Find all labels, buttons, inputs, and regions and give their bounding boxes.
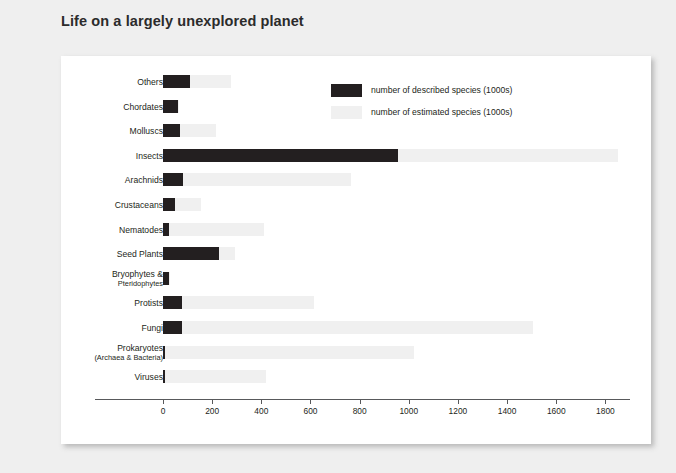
category-label: Viruses [23, 372, 163, 382]
chart-row: Bryophytes &Pteridophytes [61, 267, 651, 291]
bar-described [163, 75, 190, 88]
x-axis-tick [409, 399, 410, 404]
bar-described [163, 370, 165, 383]
x-axis-tick-label: 1000 [399, 406, 418, 416]
bar-estimated [163, 370, 266, 383]
chart-row: Prokaryotes(Archaea & Bacteria) [61, 341, 651, 365]
x-axis-tick-label: 200 [205, 406, 219, 416]
x-axis-tick-label: 1400 [498, 406, 517, 416]
bar-group [163, 291, 651, 315]
bar-estimated [163, 173, 351, 186]
x-axis-line [95, 399, 630, 400]
chart-row: Arachnids [61, 168, 651, 192]
x-axis-tick-label: 800 [353, 406, 367, 416]
x-axis-tick [507, 399, 508, 404]
category-label: Chordates [23, 102, 163, 112]
bar-estimated [163, 321, 533, 334]
category-label: Fungi [23, 323, 163, 333]
chart-row: Fungi [61, 316, 651, 340]
category-label: Crustaceans [23, 200, 163, 210]
legend-swatch-described [331, 84, 362, 97]
bar-described [163, 198, 175, 211]
x-axis-tick-label: 1200 [449, 406, 468, 416]
x-axis-tick [212, 399, 213, 404]
bar-described [163, 149, 398, 162]
chart-page: Life on a largely unexplored planet Othe… [0, 0, 676, 473]
x-axis-tick-label: 0 [161, 406, 166, 416]
bar-described [163, 124, 180, 137]
bar-described [163, 272, 169, 285]
chart-row: Crustaceans [61, 193, 651, 217]
chart-row: Protists [61, 291, 651, 315]
x-axis-tick-label: 400 [254, 406, 268, 416]
bar-group [163, 341, 651, 365]
x-axis-tick [458, 399, 459, 404]
x-axis-tick [310, 399, 311, 404]
bar-described [163, 346, 165, 359]
category-label: Bryophytes &Pteridophytes [23, 269, 163, 289]
category-label: Insects [23, 151, 163, 161]
category-label: Others [23, 77, 163, 87]
bar-described [163, 100, 178, 113]
bar-group [163, 316, 651, 340]
chart-row: Viruses [61, 365, 651, 389]
bar-group [163, 218, 651, 242]
category-label-sub: (Archaea & Bacteria) [23, 353, 163, 363]
x-axis-tick [163, 399, 164, 404]
chart-card: OthersChordatesMolluscsInsectsArachnidsC… [61, 56, 651, 444]
category-label: Seed Plants [23, 249, 163, 259]
category-label: Prokaryotes(Archaea & Bacteria) [23, 343, 163, 363]
bar-group [163, 193, 651, 217]
bar-group [163, 365, 651, 389]
bar-group [163, 267, 651, 291]
category-label: Nematodes [23, 225, 163, 235]
x-axis-tick-label: 600 [303, 406, 317, 416]
category-label: Arachnids [23, 175, 163, 185]
page-title: Life on a largely unexplored planet [61, 13, 304, 29]
legend-swatch-estimated [331, 106, 362, 119]
x-axis-tick [360, 399, 361, 404]
bar-described [163, 247, 219, 260]
plot-area: OthersChordatesMolluscsInsectsArachnidsC… [61, 56, 651, 444]
legend-label-described: number of described species (1000s) [371, 85, 512, 95]
x-axis-tick [605, 399, 606, 404]
legend: number of described species (1000s)numbe… [331, 79, 512, 123]
bar-group [163, 242, 651, 266]
bar-described [163, 223, 169, 236]
chart-row: Insects [61, 144, 651, 168]
chart-row: Nematodes [61, 218, 651, 242]
bar-group [163, 168, 651, 192]
category-label: Molluscs [23, 126, 163, 136]
category-label: Protists [23, 298, 163, 308]
bar-estimated [163, 346, 414, 359]
x-axis-tick-label: 1800 [596, 406, 615, 416]
x-axis-tick [556, 399, 557, 404]
category-label-sub: Pteridophytes [23, 279, 163, 289]
chart-row: Seed Plants [61, 242, 651, 266]
legend-label-estimated: number of estimated species (1000s) [371, 107, 512, 117]
legend-item-estimated[interactable]: number of estimated species (1000s) [331, 101, 512, 123]
bar-estimated [163, 296, 314, 309]
x-axis-tick [261, 399, 262, 404]
legend-item-described[interactable]: number of described species (1000s) [331, 79, 512, 101]
bar-estimated [163, 223, 264, 236]
bar-described [163, 296, 182, 309]
bar-described [163, 321, 182, 334]
x-axis-tick-label: 1600 [547, 406, 566, 416]
bar-described [163, 173, 183, 186]
bar-group [163, 144, 651, 168]
